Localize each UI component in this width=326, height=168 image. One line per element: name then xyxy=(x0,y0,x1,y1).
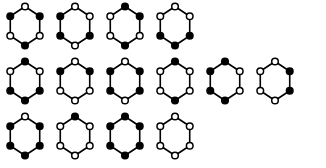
hexagon-r2c3 xyxy=(100,55,150,110)
hexagon-r1c3 xyxy=(100,0,150,55)
vertex-bottom-white xyxy=(172,152,179,159)
vertex-bottom-black xyxy=(22,152,29,159)
vertex-bottom-black xyxy=(172,42,179,49)
vertex-lower-right-white xyxy=(86,87,93,94)
hexagon-edges xyxy=(210,62,239,101)
hexagon-edges xyxy=(60,62,89,101)
vertex-lower-right-black xyxy=(36,142,43,149)
vertex-lower-right-white xyxy=(86,142,93,149)
hexagon-edges xyxy=(260,62,289,101)
vertex-upper-right-black xyxy=(286,68,293,75)
vertex-lower-right-black xyxy=(136,142,143,149)
hexagon-r1c2 xyxy=(50,0,100,55)
hexagon-r3c1 xyxy=(0,110,50,165)
vertex-top-white xyxy=(22,3,29,10)
vertex-bottom-white xyxy=(72,152,79,159)
vertex-top-black xyxy=(22,58,29,65)
vertex-bottom-white xyxy=(272,97,279,104)
hexagon-r2c6 xyxy=(250,55,300,110)
vertex-lower-right-black xyxy=(136,87,143,94)
vertex-bottom-white xyxy=(122,97,129,104)
vertex-top-white xyxy=(72,3,79,10)
hexagon-edges xyxy=(160,62,189,101)
hexagon-edges xyxy=(110,117,139,156)
hexagon-edges xyxy=(60,117,89,156)
hexagon-r3c3 xyxy=(100,110,150,165)
vertex-lower-right-white xyxy=(236,87,243,94)
vertex-upper-left-white xyxy=(57,123,64,130)
vertex-top-white xyxy=(172,3,179,10)
hexagon-r2c2 xyxy=(50,55,100,110)
vertex-lower-left-black xyxy=(157,32,164,39)
vertex-upper-left-white xyxy=(107,13,114,20)
vertex-upper-left-black xyxy=(7,13,14,20)
vertex-upper-right-black xyxy=(136,13,143,20)
hexagon-edges xyxy=(10,7,39,46)
hexagon-r2c5 xyxy=(200,55,250,110)
vertex-upper-left-white xyxy=(157,123,164,130)
vertex-top-white xyxy=(72,58,79,65)
vertex-bottom-black xyxy=(172,97,179,104)
hexagon-graphic xyxy=(0,0,50,52)
vertex-lower-left-white xyxy=(157,142,164,149)
hexagon-graphic xyxy=(100,0,150,52)
hexagon-row-2 xyxy=(0,55,326,110)
hexagon-graphic xyxy=(100,110,150,162)
hexagon-figure xyxy=(0,0,326,168)
hexagon-edges xyxy=(10,117,39,156)
vertex-upper-right-black xyxy=(36,13,43,20)
vertex-upper-right-black xyxy=(136,123,143,130)
hexagon-r1c4 xyxy=(150,0,200,55)
vertex-top-white xyxy=(22,113,29,120)
vertex-upper-left-black xyxy=(107,68,114,75)
vertex-top-black xyxy=(122,3,129,10)
vertex-top-black xyxy=(222,58,229,65)
vertex-lower-right-black xyxy=(186,32,193,39)
hexagon-edges xyxy=(160,117,189,156)
hexagon-graphic xyxy=(50,55,100,107)
vertex-top-white xyxy=(272,58,279,65)
vertex-upper-left-white xyxy=(7,68,14,75)
hexagon-graphic xyxy=(100,55,150,107)
hexagon-graphic xyxy=(200,55,250,107)
vertex-upper-right-black xyxy=(136,68,143,75)
vertex-upper-right-white xyxy=(236,68,243,75)
hexagon-edges xyxy=(110,62,139,101)
vertex-upper-left-black xyxy=(57,68,64,75)
vertex-upper-right-black xyxy=(36,123,43,130)
vertex-bottom-black xyxy=(122,152,129,159)
vertex-top-black xyxy=(122,113,129,120)
vertex-upper-right-white xyxy=(186,13,193,20)
vertex-lower-left-black xyxy=(57,32,64,39)
vertex-lower-right-white xyxy=(136,32,143,39)
vertex-lower-left-black xyxy=(207,87,214,94)
vertex-bottom-black xyxy=(22,42,29,49)
vertex-top-white xyxy=(172,113,179,120)
vertex-lower-right-white xyxy=(186,87,193,94)
vertex-bottom-white xyxy=(72,97,79,104)
vertex-upper-right-white xyxy=(36,68,43,75)
hexagon-graphic xyxy=(50,0,100,52)
vertex-lower-left-white xyxy=(157,87,164,94)
hexagon-row-1 xyxy=(0,0,326,55)
vertex-upper-left-black xyxy=(107,123,114,130)
vertex-lower-right-white xyxy=(186,142,193,149)
hexagon-row-3 xyxy=(0,110,326,165)
vertex-bottom-black xyxy=(222,97,229,104)
vertex-lower-right-black xyxy=(286,87,293,94)
hexagon-edges xyxy=(110,7,139,46)
vertex-lower-left-white xyxy=(107,32,114,39)
hexagon-graphic xyxy=(150,55,200,107)
vertex-upper-left-black xyxy=(57,13,64,20)
hexagon-r2c1 xyxy=(0,55,50,110)
hexagon-r2c4 xyxy=(150,55,200,110)
vertex-lower-left-white xyxy=(57,87,64,94)
vertex-lower-right-white xyxy=(36,32,43,39)
hexagon-graphic xyxy=(150,0,200,52)
vertex-upper-right-white xyxy=(186,123,193,130)
vertex-bottom-black xyxy=(122,42,129,49)
hexagon-edges xyxy=(60,7,89,46)
vertex-upper-right-white xyxy=(186,68,193,75)
vertex-lower-left-black xyxy=(7,87,14,94)
hexagon-graphic xyxy=(0,110,50,162)
